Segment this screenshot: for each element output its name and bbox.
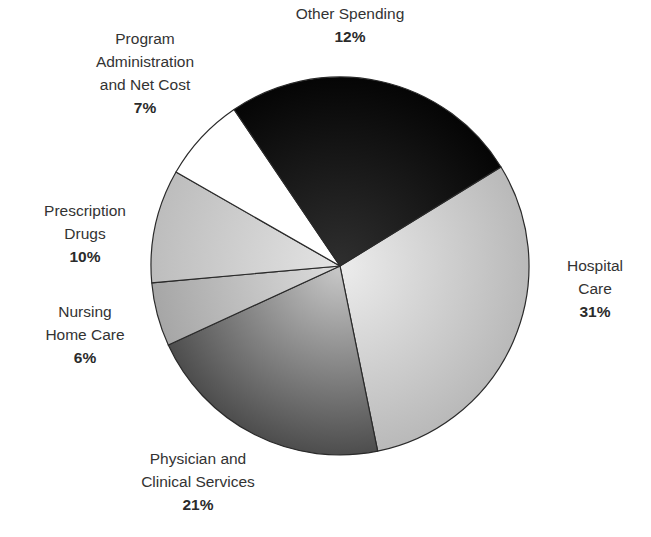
label-physician-clinical: Physician and Clinical Services 21% — [108, 447, 288, 516]
label-name: Hospital Care — [545, 254, 645, 300]
label-percent: 6% — [20, 346, 150, 369]
label-program-administration: Program Administration and Net Cost 7% — [65, 27, 225, 119]
label-percent: 12% — [270, 25, 430, 48]
label-name: Prescription Drugs — [15, 199, 155, 245]
label-percent: 31% — [545, 300, 645, 323]
pie-slices — [151, 77, 529, 455]
label-other-spending: Other Spending 12% — [270, 2, 430, 48]
label-percent: 21% — [108, 493, 288, 516]
label-prescription-drugs: Prescription Drugs 10% — [15, 199, 155, 268]
label-name: Nursing Home Care — [20, 300, 150, 346]
label-percent: 7% — [65, 96, 225, 119]
label-nursing-home-care: Nursing Home Care 6% — [20, 300, 150, 369]
label-name: Program Administration and Net Cost — [65, 27, 225, 96]
label-hospital-care: Hospital Care 31% — [545, 254, 645, 323]
label-name: Physician and Clinical Services — [108, 447, 288, 493]
label-name: Other Spending — [270, 2, 430, 25]
label-percent: 10% — [15, 245, 155, 268]
